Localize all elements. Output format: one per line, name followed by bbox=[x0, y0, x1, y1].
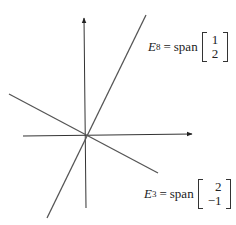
label-e8: E8 = span 1 2 bbox=[148, 32, 228, 62]
vector-matrix: 1 2 bbox=[202, 32, 229, 62]
eigenspace-symbol: E bbox=[148, 39, 156, 55]
span-word: span bbox=[174, 39, 198, 55]
eigenvalue-subscript: 3 bbox=[152, 189, 157, 199]
y-axis bbox=[84, 18, 86, 208]
eigenspace-line-e3 bbox=[9, 94, 158, 173]
right-bracket bbox=[223, 32, 228, 62]
span-word: span bbox=[170, 186, 194, 202]
vector-entry: −1 bbox=[208, 194, 222, 208]
vector-entry: 2 bbox=[212, 47, 219, 61]
vector-entry: 2 bbox=[215, 180, 222, 194]
vector-matrix: 2 −1 bbox=[198, 179, 232, 209]
vector-entry: 1 bbox=[212, 33, 219, 47]
equals-sign: = bbox=[163, 39, 170, 55]
eigenspace-symbol: E bbox=[144, 186, 152, 202]
label-e3: E3 = span 2 −1 bbox=[144, 179, 231, 209]
right-bracket bbox=[226, 179, 231, 209]
eigenvalue-subscript: 8 bbox=[156, 42, 161, 52]
eigenspace-line-e8 bbox=[47, 15, 146, 218]
x-axis bbox=[23, 134, 192, 136]
equals-sign: = bbox=[159, 186, 166, 202]
